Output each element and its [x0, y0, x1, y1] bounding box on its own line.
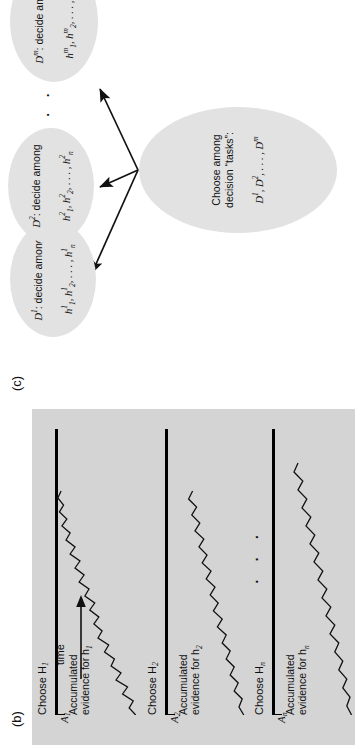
- choose-label-n: Choose Hn: [253, 662, 267, 715]
- time-axis-label: time: [54, 644, 66, 665]
- panel-b-race-model: (b) Race model Choose H1 A1 Accumulated …: [0, 399, 362, 749]
- root-node-ellipse: Choose among decision “tasks”: D1, D2, .…: [139, 107, 337, 233]
- race-model-plot-area: Choose H1 A1 Accumulated evidence for h1: [32, 409, 355, 745]
- evidence-axis-label-2: Accumulated evidence for h2: [177, 645, 206, 715]
- panel-b-label: (b): [9, 711, 24, 727]
- accumulator-row-n: Choose Hn An Accumulated evidence for hn: [251, 409, 359, 745]
- axis-tick-n: [272, 714, 282, 715]
- accumulator-row-1: Choose H1 A1 Accumulated evidence for h1: [34, 409, 142, 745]
- figure-canvas: (b) Race model Choose H1 A1 Accumulated …: [0, 0, 362, 749]
- accumulator-row-2: Choose H2 A2 Accumulated evidence for h2: [144, 409, 252, 745]
- time-axis-arrow: [68, 595, 90, 681]
- child-node-ellipse-2: D2: decide among h21, h22, . . . , h2n: [8, 128, 94, 244]
- child-node-text-1: D1: decide among h11, h12, . . . , h1n: [28, 237, 79, 320]
- panel-c-hierarchy: (c) Choose among decision “tasks”: D1, D…: [0, 0, 362, 399]
- child-node-text-2: D2: decide among h21, h22, . . . , h2n: [26, 144, 77, 227]
- root-node-text: Choose among decision “tasks”: D1, D2, .…: [210, 132, 266, 208]
- axis-tick-1: [55, 714, 65, 715]
- child-node-text-m: Dm: decide among hm1, hm2, . . . , hmn: [29, 0, 80, 63]
- choose-label-2: Choose H2: [146, 662, 160, 715]
- evidence-axis-label-n: Accumulated evidence for hn: [284, 645, 313, 715]
- choose-label-1: Choose H1: [36, 662, 50, 715]
- axis-tick-2: [165, 714, 175, 715]
